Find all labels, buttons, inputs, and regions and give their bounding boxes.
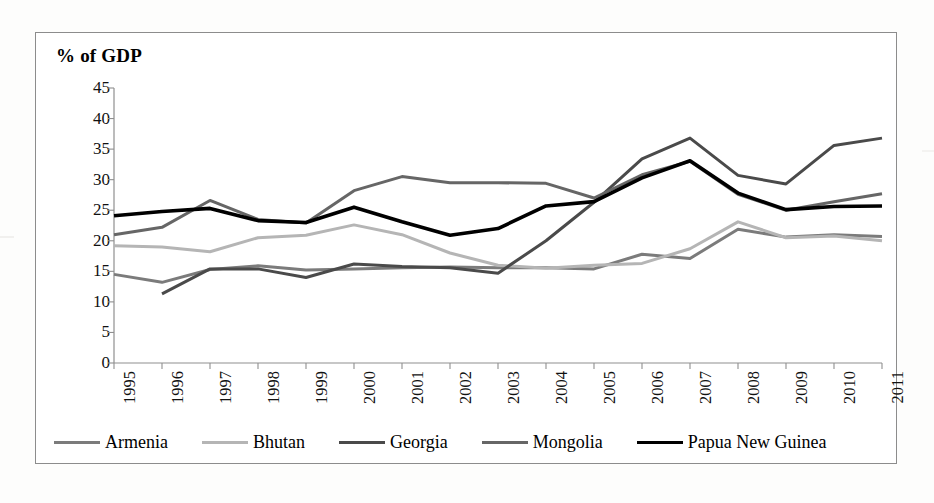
figure-root: % of GDP 051015202530354045 199519961997… bbox=[0, 0, 934, 503]
chart-legend: ArmeniaBhutanGeorgiaMongoliaPapua New Gu… bbox=[54, 425, 880, 459]
x-tick-label-2011: 2011 bbox=[888, 371, 908, 403]
x-tick-label-2010: 2010 bbox=[840, 371, 860, 404]
x-tick-label-1998: 1998 bbox=[264, 371, 284, 404]
scan-artifact bbox=[922, 150, 934, 152]
legend-swatch-icon bbox=[482, 441, 528, 444]
y-axis: 051015202530354045 bbox=[70, 88, 110, 363]
legend-item-mongolia[interactable]: Mongolia bbox=[482, 432, 603, 453]
legend-swatch-icon bbox=[202, 441, 248, 444]
x-tick-label-2005: 2005 bbox=[600, 371, 620, 404]
legend-item-bhutan[interactable]: Bhutan bbox=[202, 432, 305, 453]
x-tick-label-1999: 1999 bbox=[312, 371, 332, 404]
y-tick-label-40: 40 bbox=[76, 110, 110, 127]
y-tick-label-5: 5 bbox=[76, 323, 110, 340]
series-line-mongolia bbox=[114, 161, 882, 234]
x-tick-label-2008: 2008 bbox=[744, 371, 764, 404]
legend-label: Georgia bbox=[390, 432, 448, 453]
y-tick-label-10: 10 bbox=[76, 293, 110, 310]
series-canvas bbox=[114, 88, 882, 363]
y-tick-label-15: 15 bbox=[76, 262, 110, 279]
scan-artifact bbox=[0, 236, 14, 238]
y-tick-label-0: 0 bbox=[76, 354, 110, 371]
legend-label: Armenia bbox=[105, 432, 168, 453]
y-tick-label-30: 30 bbox=[76, 171, 110, 188]
legend-item-georgia[interactable]: Georgia bbox=[339, 432, 448, 453]
legend-label: Mongolia bbox=[533, 432, 603, 453]
x-tick-label-1997: 1997 bbox=[216, 371, 236, 404]
y-tick-label-20: 20 bbox=[76, 232, 110, 249]
legend-item-armenia[interactable]: Armenia bbox=[54, 432, 168, 453]
x-tick-label-2009: 2009 bbox=[792, 371, 812, 404]
x-tick-label-2006: 2006 bbox=[648, 371, 668, 404]
x-tick-label-2000: 2000 bbox=[360, 371, 380, 404]
x-tick-label-2004: 2004 bbox=[552, 371, 572, 404]
legend-label: Bhutan bbox=[253, 432, 305, 453]
plot-area bbox=[114, 88, 882, 363]
legend-swatch-icon bbox=[54, 441, 100, 444]
x-tick-label-1995: 1995 bbox=[120, 371, 140, 404]
x-tick-label-2007: 2007 bbox=[696, 371, 716, 404]
y-tick-label-45: 45 bbox=[76, 79, 110, 96]
x-tick-label-2003: 2003 bbox=[504, 371, 524, 404]
series-line-papua-new-guinea bbox=[114, 161, 882, 236]
x-tick-label-2002: 2002 bbox=[456, 371, 476, 404]
chart-frame: % of GDP 051015202530354045 199519961997… bbox=[35, 32, 897, 464]
x-tick-label-1996: 1996 bbox=[168, 371, 188, 404]
legend-swatch-icon bbox=[339, 441, 385, 444]
legend-swatch-icon bbox=[637, 441, 683, 444]
y-tick-label-35: 35 bbox=[76, 140, 110, 157]
legend-item-papua-new-guinea[interactable]: Papua New Guinea bbox=[637, 432, 827, 453]
x-tick-label-2001: 2001 bbox=[408, 371, 428, 404]
y-tick-label-25: 25 bbox=[76, 201, 110, 218]
chart-title: % of GDP bbox=[56, 45, 142, 67]
legend-label: Papua New Guinea bbox=[688, 432, 827, 453]
